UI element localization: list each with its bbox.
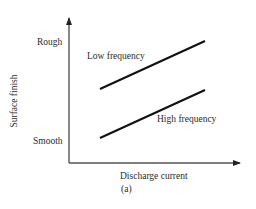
y-tick-rough: Rough: [37, 37, 62, 48]
x-axis-label: Discharge current: [120, 171, 188, 182]
surface-finish-diagram: Surface finish Rough Smooth Low frequenc…: [0, 0, 256, 209]
figure-caption: (a): [121, 184, 132, 195]
y-axis-label: Surface finish: [9, 74, 19, 127]
y-tick-smooth: Smooth: [33, 136, 63, 147]
low-frequency-line: [100, 41, 205, 89]
high-frequency-label: High frequency: [157, 114, 216, 125]
low-frequency-label: Low frequency: [87, 51, 145, 62]
